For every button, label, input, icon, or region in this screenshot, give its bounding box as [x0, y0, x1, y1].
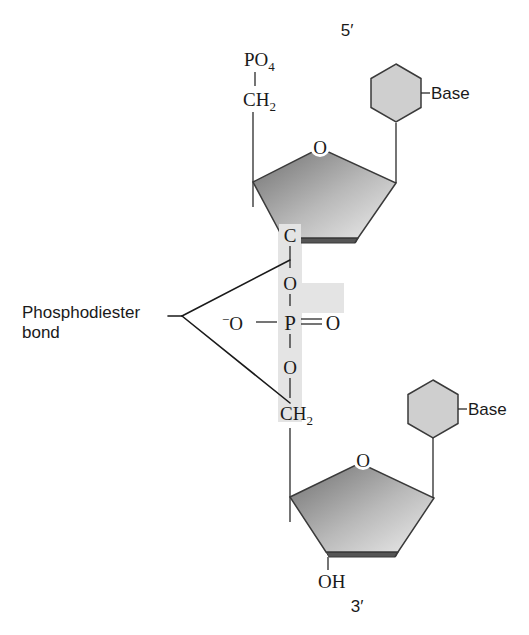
phosphorus-atom: P: [284, 311, 296, 335]
lower-ring-oxygen: O: [356, 450, 370, 471]
double-bond-oxygen: O: [326, 312, 340, 334]
three-prime-label: 3′: [351, 597, 364, 616]
lower-deoxyribose-ring: [290, 463, 434, 557]
bridge-upper-oxygen: O: [283, 273, 297, 294]
dna-phosphodiester-diagram: 5′ PO4 CH2 O C Base: [0, 0, 529, 635]
charged-oxygen: −O: [222, 312, 243, 334]
upper-base-hexagon: [371, 64, 421, 122]
lower-methylene-group: CH2: [280, 403, 313, 428]
upper-methylene-group: CH2: [243, 89, 276, 114]
five-prime-label: 5′: [341, 21, 354, 40]
upper-nucleotide: 5′ PO4 CH2 O C Base: [243, 21, 470, 246]
callout-arm-upper: [182, 260, 290, 316]
phosphodiester-bond-label: Phosphodiester bond: [22, 303, 140, 343]
bridge-lower-oxygen: O: [283, 357, 297, 378]
upper-base-label: Base: [431, 84, 470, 103]
c3-carbon: C: [284, 225, 297, 246]
upper-ring-oxygen: O: [313, 137, 327, 158]
callout-line-2: bond: [22, 323, 140, 343]
upper-deoxyribose-ring: [253, 148, 396, 243]
lower-base-hexagon: [408, 380, 458, 438]
lower-base-label: Base: [468, 400, 507, 419]
callout-line-1: Phosphodiester: [22, 303, 140, 323]
hydroxyl-group: OH: [318, 571, 346, 592]
phosphate-group: PO4: [244, 49, 275, 74]
lower-nucleotide: CH2 O OH 3′ Base: [280, 380, 507, 616]
